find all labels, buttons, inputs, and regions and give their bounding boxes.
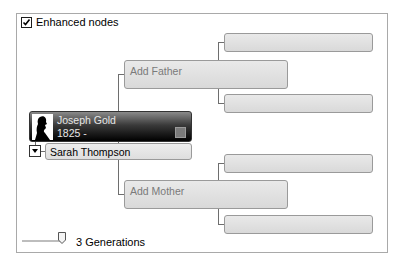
add-father-label: Add Father bbox=[130, 65, 182, 77]
generations-label: 3 Generations bbox=[76, 236, 145, 248]
spouse-name: Sarah Thompson bbox=[50, 146, 130, 158]
edit-icon[interactable] bbox=[175, 127, 186, 138]
add-father-node[interactable]: Add Father bbox=[124, 60, 288, 89]
root-person-node[interactable]: Joseph Gold 1825 - bbox=[29, 111, 192, 142]
enhanced-nodes-checkbox[interactable] bbox=[21, 17, 32, 28]
grandparent-node-4[interactable] bbox=[224, 215, 373, 234]
add-mother-label: Add Mother bbox=[130, 185, 184, 197]
grandparent-node-2[interactable] bbox=[224, 94, 373, 113]
grandparent-node-3[interactable] bbox=[224, 154, 373, 173]
checkmark-icon bbox=[22, 18, 31, 27]
enhanced-nodes-label: Enhanced nodes bbox=[36, 16, 119, 28]
root-person-name: Joseph Gold bbox=[57, 114, 116, 126]
spouse-dropdown-button[interactable] bbox=[29, 145, 41, 157]
generations-slider-track[interactable] bbox=[22, 240, 62, 243]
silhouette-icon bbox=[32, 114, 53, 140]
generations-slider-thumb[interactable] bbox=[58, 232, 66, 244]
root-person-years: 1825 - bbox=[57, 127, 87, 139]
add-mother-node[interactable]: Add Mother bbox=[124, 180, 288, 209]
spouse-node[interactable]: Sarah Thompson bbox=[45, 143, 192, 160]
grandparent-node-1[interactable] bbox=[224, 33, 373, 52]
